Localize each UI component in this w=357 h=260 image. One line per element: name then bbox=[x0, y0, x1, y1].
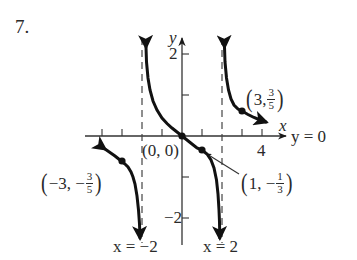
fraction: 35 bbox=[86, 171, 94, 195]
tick-label-y-2: 2 bbox=[169, 45, 178, 62]
asym-left-text: x = −2 bbox=[113, 237, 158, 256]
point-origin bbox=[178, 132, 185, 139]
tick-label-x-4: 4 bbox=[257, 142, 266, 159]
numerator: 1 bbox=[276, 171, 284, 184]
asym-horizontal-text: y = 0 bbox=[291, 127, 326, 146]
asymptote-label-right: x = 2 bbox=[203, 238, 238, 255]
point-label-right: (3, 35) bbox=[245, 86, 285, 112]
denominator: 5 bbox=[268, 100, 274, 112]
problem-number: 7. bbox=[15, 17, 29, 36]
x-axis-label: x bbox=[279, 117, 287, 134]
asymptote-label-horizontal: y = 0 bbox=[291, 128, 326, 145]
point-neg3-neg3over5 bbox=[118, 157, 125, 164]
tick-label-y-neg2: −2 bbox=[164, 209, 182, 226]
asymptote-label-left: x = −2 bbox=[113, 238, 158, 255]
pt-mid-x: 1, − bbox=[249, 175, 276, 192]
origin-label: (0, 0) bbox=[142, 142, 179, 159]
denominator: 5 bbox=[87, 184, 93, 196]
numerator: 3 bbox=[86, 171, 94, 184]
denominator: 3 bbox=[277, 184, 283, 196]
numerator: 3 bbox=[267, 87, 275, 100]
asym-right-text: x = 2 bbox=[203, 237, 238, 256]
pt-left-x: −3, − bbox=[49, 175, 85, 192]
point-1-neg1over3 bbox=[198, 146, 205, 153]
point-label-left: (−3, − 35) bbox=[40, 170, 103, 196]
fraction: 35 bbox=[267, 87, 275, 111]
point-label-mid: (1, − 13) bbox=[240, 170, 293, 196]
fraction: 13 bbox=[276, 171, 284, 195]
pt-right-x: 3, bbox=[254, 91, 267, 108]
